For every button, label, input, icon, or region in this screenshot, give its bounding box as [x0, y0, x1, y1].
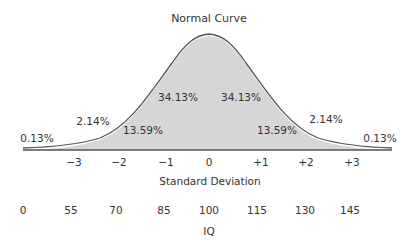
iq-axis-label: IQ [203, 225, 214, 237]
iq-tick: 100 [199, 204, 219, 216]
iq-tick: 115 [247, 204, 267, 216]
chart-title: Normal Curve [171, 12, 247, 25]
iq-tick: 145 [340, 204, 360, 216]
sd-tick: −2 [111, 156, 126, 168]
sd-tick: +3 [344, 156, 359, 168]
segment-label: 0.13% [363, 132, 396, 144]
segment-label: 13.59% [123, 124, 163, 136]
x-axis-label: Standard Deviation [159, 175, 260, 187]
sd-tick: −3 [66, 156, 81, 168]
segment-label: 34.13% [221, 91, 261, 103]
sd-tick: 0 [206, 156, 213, 168]
iq-tick: 55 [64, 204, 77, 216]
segment-label: 13.59% [257, 124, 297, 136]
segment-label: 34.13% [158, 91, 198, 103]
iq-tick: 70 [109, 204, 122, 216]
iq-tick: 130 [295, 204, 315, 216]
segment-label: 2.14% [76, 115, 109, 127]
sd-tick: +1 [253, 156, 268, 168]
iq-tick: 85 [157, 204, 170, 216]
segment-label: 2.14% [309, 113, 342, 125]
sd-tick: +2 [298, 156, 313, 168]
iq-tick: 0 [20, 204, 27, 216]
segment-label: 0.13% [20, 132, 53, 144]
sd-tick: −1 [158, 156, 173, 168]
curve-fill [23, 36, 392, 150]
